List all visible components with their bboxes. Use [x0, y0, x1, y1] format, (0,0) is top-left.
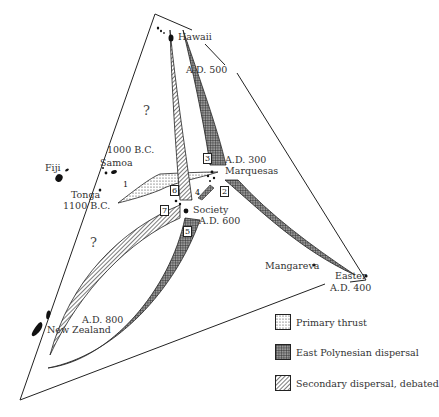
dots-pattern-icon: [275, 314, 291, 330]
route-number-4: 4: [194, 188, 201, 197]
label-fiji: Fiji: [45, 162, 61, 173]
island-fiji: [54, 173, 64, 183]
uncertain-marker-nz: ?: [90, 235, 97, 250]
label-mangareva: Mangareva: [265, 260, 319, 271]
label-hawaii: Hawaii: [178, 31, 212, 42]
island-society: [175, 200, 178, 203]
label-new-zealand: New Zealand: [47, 324, 111, 335]
legend-label: Secondary dispersal, debated: [296, 378, 439, 389]
legend-item-primary-thrust: Primary thrust: [275, 314, 367, 330]
legend-item-east-polynesian: East Polynesian dispersal: [275, 344, 419, 360]
uncertain-marker-hawaii: ?: [143, 103, 150, 118]
legend-label: Primary thrust: [296, 317, 367, 328]
route-number-6: 6: [170, 185, 179, 196]
diagonal-pattern-icon: [275, 375, 291, 391]
route-number-5: 5: [183, 226, 192, 237]
label-easter: Easter: [335, 270, 366, 281]
label-marquesas: Marquesas: [225, 165, 278, 176]
island-new-zealand: [46, 311, 50, 320]
route-number-7: 7: [160, 205, 169, 216]
route-number-1: 1: [122, 180, 129, 189]
label-samoa-date: 1000 B.C.: [107, 144, 154, 155]
legend-item-secondary-dispersal: Secondary dispersal, debated: [275, 375, 439, 391]
island-hawaii: [169, 35, 174, 42]
label-tonga-date: 1100 B.C.: [63, 200, 110, 211]
route-number-3: 3: [203, 153, 212, 164]
legend-label: East Polynesian dispersal: [296, 347, 419, 358]
label-tonga: Tonga: [71, 189, 100, 200]
label-samoa: Samoa: [100, 157, 133, 168]
island-marquesas: [211, 171, 214, 174]
label-society: Society: [193, 204, 228, 215]
route-3-east-polynesian: [183, 30, 226, 165]
label-hawaii-date: A.D. 500: [186, 64, 227, 75]
island-samoa: [111, 169, 118, 174]
label-easter-date: A.D. 400: [330, 282, 371, 293]
route-number-2: 2: [220, 186, 229, 197]
label-marquesas-date: A.D. 300: [225, 154, 266, 165]
label-society-date: A.D. 600: [199, 215, 240, 226]
grid-pattern-icon: [275, 344, 291, 360]
